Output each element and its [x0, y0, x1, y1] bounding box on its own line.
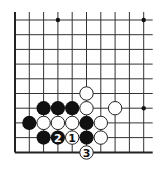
black-stone	[79, 116, 93, 130]
white-stone-move-3: 3	[80, 146, 93, 160]
white-stone	[80, 87, 93, 100]
white-stone	[108, 102, 121, 115]
black-stone	[79, 131, 93, 145]
star-point	[142, 18, 146, 22]
move-number: 3	[83, 147, 91, 160]
white-stone	[94, 131, 107, 144]
black-stone	[22, 116, 36, 130]
black-stone	[37, 131, 51, 145]
star-point	[142, 106, 146, 110]
move-number: 2	[54, 132, 62, 145]
black-stone	[37, 101, 51, 115]
go-board: 213	[0, 0, 162, 171]
white-stone	[37, 116, 50, 129]
white-stone	[51, 116, 64, 129]
star-point	[56, 18, 60, 22]
black-stone-move-2: 2	[51, 131, 65, 145]
white-stone	[66, 116, 79, 129]
move-number: 1	[68, 132, 76, 145]
black-stone	[65, 101, 79, 115]
black-stone	[51, 101, 65, 115]
white-stone-move-1: 1	[66, 131, 79, 145]
white-stone	[80, 102, 93, 115]
white-stone	[94, 116, 107, 129]
